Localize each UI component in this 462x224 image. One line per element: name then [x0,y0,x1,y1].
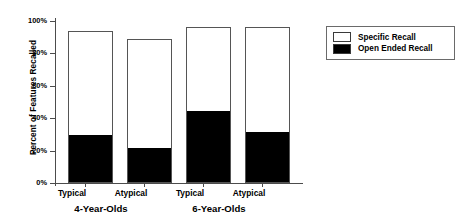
y-axis-tick-label-80: 80% [32,48,47,57]
chart-figure: Percent of Features Recalled 0% 20% 40% … [0,0,462,224]
bar-6yo-atypical [245,27,290,183]
y-axis-tick-label-40: 40% [32,113,47,122]
legend-item-specific-recall: Specific Recall [333,32,449,43]
y-axis-tick-100: 100% [50,21,55,22]
legend-label-open-ended-recall: Open Ended Recall [358,44,433,53]
y-axis-tick-80: 80% [50,53,55,54]
y-axis-title: Percent of Features Recalled [29,8,38,188]
legend-label-specific-recall: Specific Recall [358,33,416,42]
bar-4yo-atypical [127,39,172,183]
bar-4yo-typical [68,31,113,183]
y-axis-tick-0: 0% [50,183,55,184]
x-label-6yo-typical: Typical [160,188,220,198]
y-axis-tick-20: 20% [50,151,55,152]
chart-legend: Specific Recall Open Ended Recall [326,26,455,60]
bar-fill-open-ended-0 [69,135,112,182]
legend-item-open-ended-recall: Open Ended Recall [333,43,449,54]
x-label-6yo-atypical: Atypical [219,188,279,198]
x-axis-tick-3 [203,183,204,187]
bar-fill-open-ended-3 [246,132,289,182]
bar-fill-open-ended-2 [187,111,230,182]
y-axis-tick-label-0: 0% [36,178,47,187]
x-axis-tick-1 [85,183,86,187]
y-axis-tick-label-100: 100% [28,16,47,25]
y-axis-line [55,18,56,186]
y-axis-tick-label-20: 20% [32,146,47,155]
x-axis-tick-2 [144,183,145,187]
y-axis-tick-40: 40% [50,118,55,119]
legend-swatch-specific-recall [333,32,351,42]
plot-area: 0% 20% 40% 60% 80% 100% [55,21,303,183]
legend-swatch-open-ended-recall [333,44,351,54]
group-label-6-year-olds: 6-Year-Olds [189,203,249,214]
x-axis-line [55,183,303,184]
group-label-4-year-olds: 4-Year-Olds [71,203,131,214]
x-axis-tick-4 [262,183,263,187]
y-axis-tick-60: 60% [50,86,55,87]
bar-6yo-typical [186,27,231,183]
y-axis-tick-label-60: 60% [32,81,47,90]
bar-fill-open-ended-1 [128,148,171,182]
x-label-4yo-typical: Typical [42,188,102,198]
x-label-4yo-atypical: Atypical [101,188,161,198]
